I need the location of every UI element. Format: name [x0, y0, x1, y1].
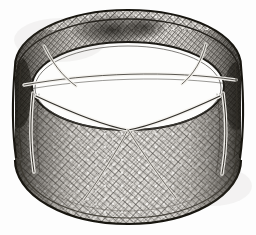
basket-illustration — [0, 0, 256, 235]
basket-engraving-figure: Cylindrical woven basket woven-basket en… — [0, 0, 256, 235]
